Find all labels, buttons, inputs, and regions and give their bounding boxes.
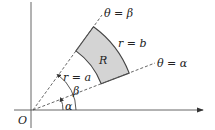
label-theta-alpha: θ = α	[157, 57, 188, 70]
label-alpha: α	[65, 100, 73, 113]
label-origin: O	[18, 114, 27, 127]
label-r-b: r = b	[118, 37, 147, 50]
label-theta-beta: θ = β	[104, 7, 133, 20]
angle-alpha-arc	[61, 99, 63, 110]
label-r-a: r = a	[63, 71, 91, 84]
polar-region-diagram: θ = β r = b R θ = α r = a β α O	[0, 0, 215, 130]
label-beta: β	[72, 85, 79, 98]
label-R: R	[98, 54, 107, 67]
